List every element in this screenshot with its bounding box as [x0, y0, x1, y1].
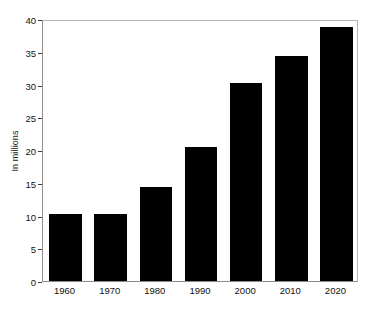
- bar: [230, 83, 263, 281]
- bar: [140, 187, 173, 281]
- x-axis-tick-label: 2010: [280, 285, 301, 296]
- bar: [49, 214, 82, 281]
- x-axis-tick-label: 1980: [144, 285, 165, 296]
- bars-layer: [43, 21, 357, 281]
- x-axis-tick-label: 1960: [54, 285, 75, 296]
- x-axis-tick-label: 1970: [99, 285, 120, 296]
- x-axis-tick-labels: 1960197019801990200020102020: [42, 285, 358, 301]
- bar-chart: In millions 0510152025303540 19601970198…: [0, 0, 379, 311]
- plot-area: [42, 20, 358, 282]
- bar: [320, 27, 353, 281]
- bar: [185, 147, 218, 281]
- x-axis-tick-label: 2000: [235, 285, 256, 296]
- bar: [275, 56, 308, 281]
- x-axis-tick-label: 1990: [189, 285, 210, 296]
- x-axis-tick-label: 2020: [325, 285, 346, 296]
- bar: [94, 214, 127, 281]
- y-axis-tick-mark: [38, 282, 42, 283]
